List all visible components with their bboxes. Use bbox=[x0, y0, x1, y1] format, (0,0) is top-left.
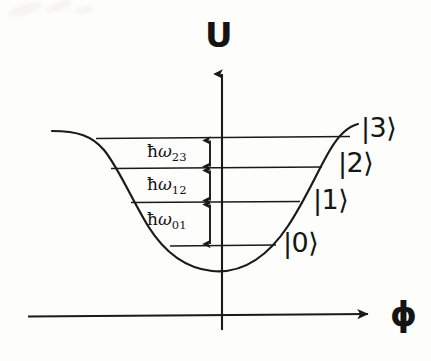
potential-well-figure: U ϕ |3⟩ |2⟩ |1⟩ |0⟩ ħω23 ħω12 ħω01 bbox=[0, 0, 431, 361]
phi-axis bbox=[28, 314, 368, 317]
omega-symbol: ω bbox=[158, 174, 172, 194]
u-axis-label: U bbox=[205, 18, 233, 52]
transition-subscript: 12 bbox=[172, 183, 187, 197]
omega-symbol: ω bbox=[158, 141, 172, 161]
hbar-symbol: ħ bbox=[147, 141, 158, 161]
hbar-symbol: ħ bbox=[147, 174, 158, 194]
energy-level-line-0 bbox=[170, 245, 276, 246]
energy-level-line-2 bbox=[111, 167, 322, 169]
state-label-2: |2⟩ bbox=[338, 149, 373, 176]
state-label-1: |1⟩ bbox=[313, 186, 348, 213]
phi-axis-label: ϕ bbox=[390, 297, 417, 331]
state-label-3: |3⟩ bbox=[361, 114, 396, 141]
state-label-0: |0⟩ bbox=[283, 229, 318, 256]
hbar-symbol: ħ bbox=[147, 209, 158, 229]
transition-label-23: ħω23 bbox=[147, 143, 186, 164]
transition-subscript: 23 bbox=[172, 150, 187, 164]
omega-symbol: ω bbox=[158, 209, 172, 229]
transition-label-01: ħω01 bbox=[147, 211, 186, 232]
transition-subscript: 01 bbox=[172, 218, 187, 232]
energy-level-line-3 bbox=[96, 137, 350, 139]
energy-level-line-1 bbox=[131, 202, 300, 203]
transition-label-12: ħω12 bbox=[147, 176, 186, 197]
